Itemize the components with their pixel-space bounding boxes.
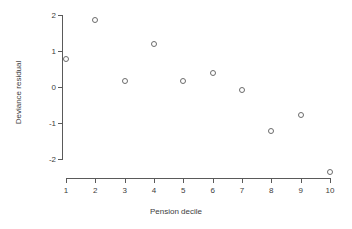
x-axis-tick-label: 10: [318, 186, 342, 195]
data-point: [298, 112, 304, 118]
x-axis-tick: [330, 179, 331, 183]
data-point: [63, 56, 69, 62]
y-axis-tick: [58, 159, 62, 160]
data-point: [239, 87, 245, 93]
y-axis-tick: [58, 51, 62, 52]
data-point: [151, 41, 157, 47]
x-axis-title: Pension decile: [0, 207, 352, 216]
y-axis-tick: [58, 123, 62, 124]
y-axis-title: Deviance residual: [14, 33, 23, 153]
x-axis-tick: [213, 179, 214, 183]
y-axis-tick-label: -2: [16, 155, 56, 164]
x-axis-tick-label: 5: [171, 186, 195, 195]
x-axis-tick-label: 1: [54, 186, 78, 195]
x-axis-tick-label: 6: [201, 186, 225, 195]
y-axis-line: [62, 15, 63, 160]
x-axis-tick: [154, 179, 155, 183]
data-point: [180, 78, 186, 84]
x-axis-tick-label: 8: [259, 186, 283, 195]
x-axis-tick: [242, 179, 243, 183]
x-axis-tick: [183, 179, 184, 183]
x-axis-tick-label: 9: [289, 186, 313, 195]
data-point: [92, 17, 98, 23]
scatter-plot-figure: 210-1-2 12345678910 Pension decile Devia…: [0, 0, 352, 229]
x-axis-line: [66, 178, 331, 179]
y-axis-tick: [58, 15, 62, 16]
y-axis-tick-label: 2: [16, 11, 56, 20]
data-point: [327, 169, 333, 175]
x-axis-tick-label: 2: [83, 186, 107, 195]
x-axis-tick: [66, 179, 67, 183]
x-axis-tick: [301, 179, 302, 183]
data-point: [210, 70, 216, 76]
x-axis-tick-label: 3: [113, 186, 137, 195]
x-axis-tick-label: 4: [142, 186, 166, 195]
data-point: [268, 128, 274, 134]
data-point: [122, 78, 128, 84]
y-axis-tick: [58, 87, 62, 88]
x-axis-tick: [271, 179, 272, 183]
x-axis-tick: [95, 179, 96, 183]
x-axis-tick-label: 7: [230, 186, 254, 195]
x-axis-tick: [125, 179, 126, 183]
